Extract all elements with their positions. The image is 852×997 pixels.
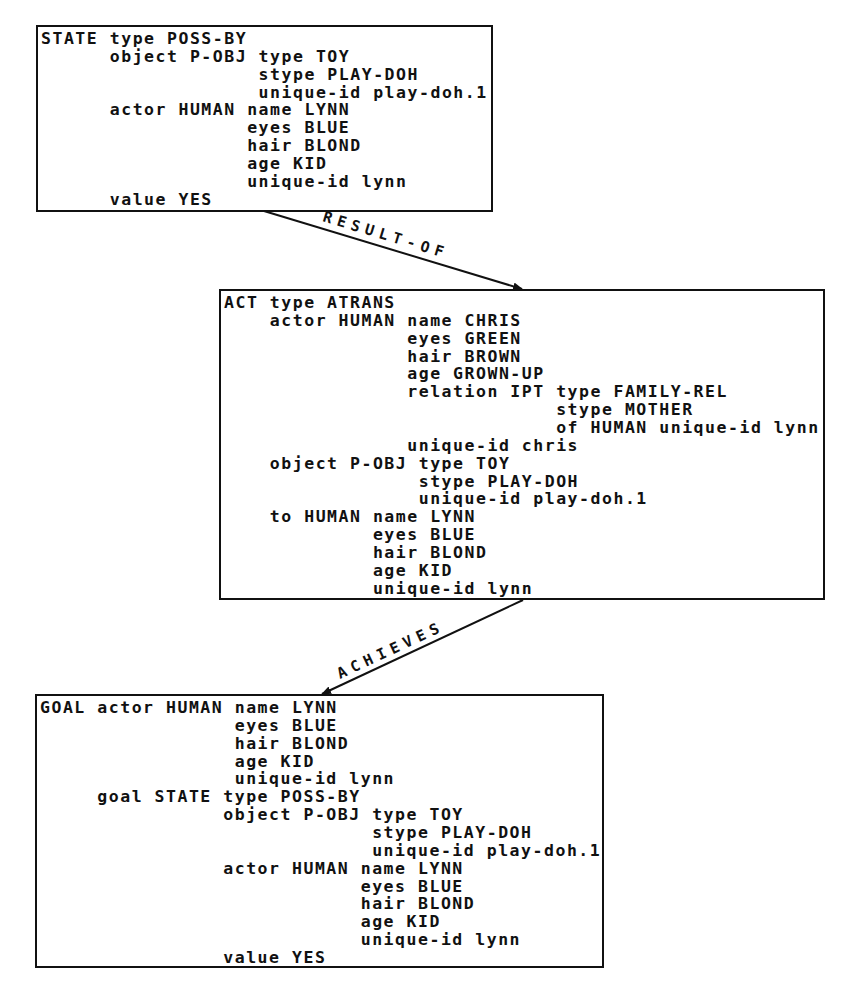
frame-line: actor HUMAN name CHRIS — [224, 312, 820, 330]
frame-line: unique-id lynn — [40, 770, 601, 788]
frame-line: unique-id play-doh.1 — [41, 84, 488, 102]
frame-line: eyes BLUE — [40, 878, 601, 896]
state-frame: STATE type POSS-BY object P-OBJ type TOY… — [36, 25, 493, 212]
frame-line: stype PLAY-DOH — [41, 66, 488, 84]
state-frame-text: STATE type POSS-BY object P-OBJ type TOY… — [41, 30, 488, 209]
act-frame: ACT type ATRANS actor HUMAN name CHRIS e… — [219, 289, 825, 600]
goal-frame: GOAL actor HUMAN name LYNN eyes BLUE hai… — [35, 694, 604, 968]
frame-line: stype MOTHER — [224, 401, 820, 419]
frame-line: unique-id lynn — [41, 173, 488, 191]
achieves-link: ACHIEVES — [322, 600, 523, 694]
frame-line: age KID — [40, 913, 601, 931]
frame-line: hair BROWN — [224, 348, 820, 366]
frame-line: eyes BLUE — [40, 717, 601, 735]
frame-line: object P-OBJ type TOY — [41, 48, 488, 66]
frame-line: actor HUMAN name LYNN — [40, 860, 601, 878]
frame-line: unique-id play-doh.1 — [224, 490, 820, 508]
frame-line: hair BLOND — [40, 895, 601, 913]
frame-line: goal STATE type POSS-BY — [40, 788, 601, 806]
frame-line: age KID — [224, 562, 820, 580]
frame-line: unique-id lynn — [224, 580, 820, 598]
frame-line: age KID — [40, 753, 601, 771]
frame-line: eyes BLUE — [41, 119, 488, 137]
frame-line: age GROWN-UP — [224, 365, 820, 383]
frame-line: of HUMAN unique-id lynn — [224, 419, 820, 437]
frame-line: GOAL actor HUMAN name LYNN — [40, 699, 601, 717]
frame-line: value YES — [41, 191, 488, 209]
achieves-label: ACHIEVES — [334, 617, 447, 682]
act-frame-text: ACT type ATRANS actor HUMAN name CHRIS e… — [224, 294, 820, 598]
frame-line: object P-OBJ type TOY — [40, 806, 601, 824]
frame-line: STATE type POSS-BY — [41, 30, 488, 48]
frame-line: unique-id chris — [224, 437, 820, 455]
result-of-label: RESULT-OF — [321, 208, 451, 263]
frame-line: unique-id lynn — [40, 931, 601, 949]
frame-line: age KID — [41, 155, 488, 173]
achieves-arrow-icon — [322, 600, 523, 694]
frame-line: eyes BLUE — [224, 526, 820, 544]
frame-line: hair BLOND — [224, 544, 820, 562]
result-of-arrow-icon — [264, 211, 522, 289]
frame-line: hair BLOND — [40, 735, 601, 753]
frame-line: ACT type ATRANS — [224, 294, 820, 312]
frame-line: to HUMAN name LYNN — [224, 508, 820, 526]
frame-line: relation IPT type FAMILY-REL — [224, 383, 820, 401]
frame-line: hair BLOND — [41, 137, 488, 155]
frame-line: value YES — [40, 949, 601, 967]
frame-line: actor HUMAN name LYNN — [41, 101, 488, 119]
frame-line: eyes GREEN — [224, 330, 820, 348]
frame-line: stype PLAY-DOH — [224, 473, 820, 491]
frame-line: stype PLAY-DOH — [40, 824, 601, 842]
goal-frame-text: GOAL actor HUMAN name LYNN eyes BLUE hai… — [40, 699, 601, 967]
frame-line: object P-OBJ type TOY — [224, 455, 820, 473]
result-of-link: RESULT-OF — [264, 208, 522, 289]
frame-line: unique-id play-doh.1 — [40, 842, 601, 860]
